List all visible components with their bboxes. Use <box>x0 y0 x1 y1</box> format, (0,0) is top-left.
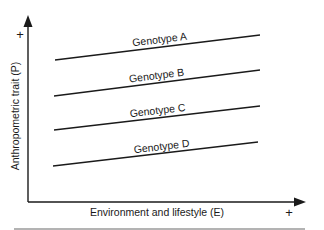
x-axis-label: Environment and lifestyle (E) <box>90 206 224 218</box>
genotype-lines: Genotype AGenotype BGenotype CGenotype D <box>53 30 260 166</box>
genotype-label: Genotype A <box>132 30 188 49</box>
genotype-label: Genotype B <box>128 66 185 85</box>
x-axis-arrow-icon <box>294 198 306 207</box>
genotype-label: Genotype D <box>133 137 190 155</box>
y-axis-plus: + <box>16 27 24 42</box>
y-axis-arrow-icon <box>24 15 33 27</box>
x-axis-plus: + <box>285 205 293 220</box>
genotype-environment-diagram: + + Anthropometric trait (P) Environment… <box>0 0 324 230</box>
genotype-label: Genotype C <box>129 101 186 119</box>
y-axis-label: Anthropometric trait (P) <box>9 62 21 171</box>
